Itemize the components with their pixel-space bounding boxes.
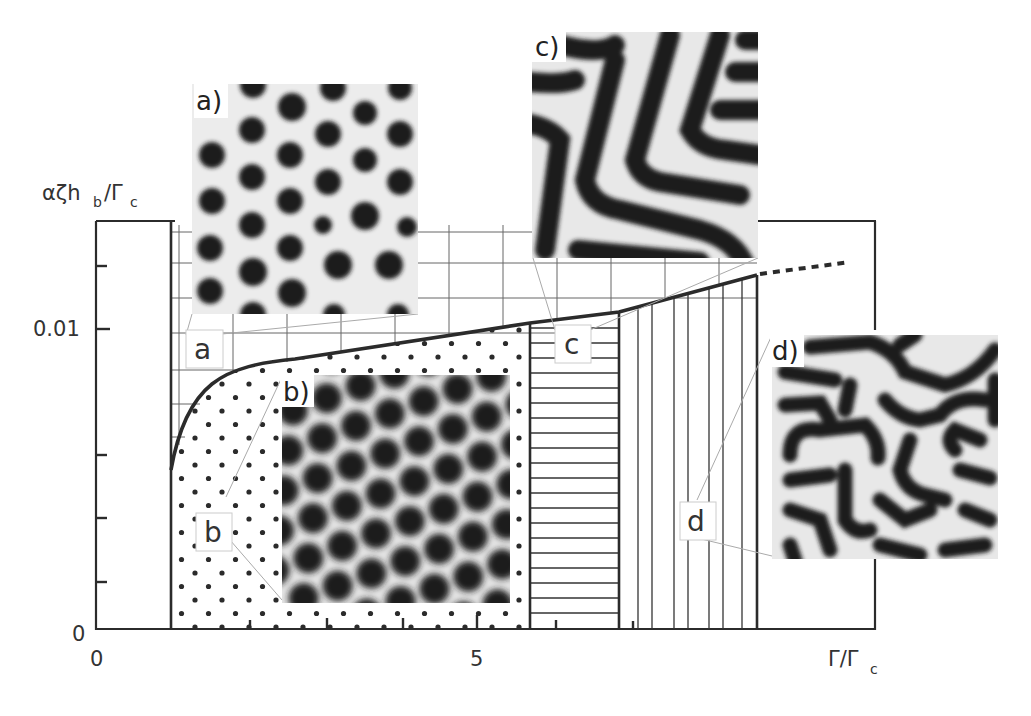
svg-text:d): d) [772, 336, 799, 366]
x-axis-label: Γ/Γ c [828, 647, 878, 677]
region-label-a: a [186, 330, 223, 368]
x-tick-label-0: 0 [90, 647, 103, 671]
phase-boundary-extrapolated [760, 262, 850, 274]
svg-text:a: a [194, 333, 211, 366]
region-label-d: d [680, 502, 716, 540]
phase-diagram: a b c d a) [0, 0, 1031, 716]
svg-text:/Γ: /Γ [104, 181, 123, 205]
svg-text:b): b) [283, 377, 310, 407]
y-tick-label-001: 0.01 [33, 317, 80, 341]
svg-text:a): a) [196, 86, 222, 116]
svg-text:d: d [687, 505, 705, 538]
y-axis-ticks [96, 266, 110, 582]
y-tick-label-0: 0 [72, 622, 85, 646]
inset-a-hexagonal: a) [192, 72, 418, 328]
svg-text:αζh: αζh [42, 181, 81, 205]
svg-text:c: c [870, 661, 878, 677]
region-d-vlines [638, 260, 742, 629]
svg-text:b: b [93, 194, 102, 210]
inset-d-labyrinth: d) [770, 333, 998, 560]
svg-text:c: c [130, 194, 138, 210]
x-tick-label-5: 5 [470, 647, 483, 671]
inset-c-stripes: c) [530, 30, 760, 265]
svg-text:c: c [564, 328, 579, 361]
svg-text:Γ/Γ: Γ/Γ [828, 647, 859, 671]
svg-text:c): c) [535, 32, 559, 62]
region-label-b: b [196, 513, 232, 551]
y-axis-label: αζh b /Γ c [42, 181, 138, 210]
region-label-c: c [555, 325, 591, 363]
svg-text:b: b [204, 516, 222, 549]
